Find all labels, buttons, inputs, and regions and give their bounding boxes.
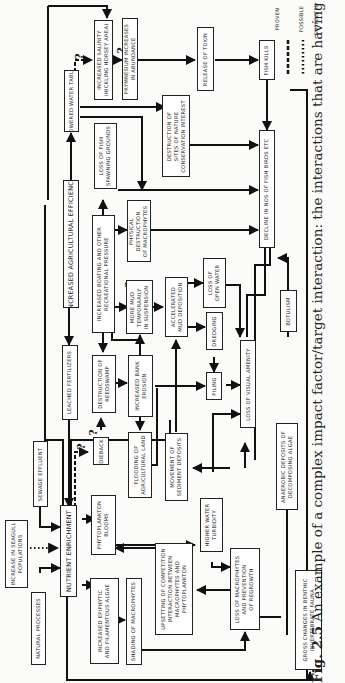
node-loss-macrophytes: LOSS OF MACROPHYTES AND PREVENTION OF RE… [230, 548, 260, 630]
node-physical-destruction: PHYSICAL DESTRUCTION OF MACROPHYTES [127, 200, 151, 262]
node-prymnesium: PRYMNESIUM INCREASES IN ABUNDANCE [122, 18, 138, 100]
caption-text: An example of a complex impact factor/ta… [309, 0, 325, 626]
legend-proven: PROVEN [270, 0, 284, 38]
node-loss-open-water: LOSS OF OPEN WATER [203, 258, 226, 308]
node-dieback: DIEBACK [93, 437, 109, 465]
node-increased-bank-erosion: INCREASED BANK EROSION [128, 355, 153, 417]
node-accelerated-mud: ACCELERATED MUD DEPOSITION [165, 277, 188, 337]
question-mark: ? [87, 429, 100, 435]
node-fish-kills: FISH KILLS [259, 40, 275, 80]
node-upsetting-competition: UPSETTING OF COMPETITION INTERACTION BET… [155, 543, 193, 635]
node-increased-boating: INCREASED BOATING AND OTHER RECREATIONAL… [92, 215, 115, 333]
node-release-of-toxin: RELEASE OF TOXIN [197, 27, 214, 91]
figure-label: Fig. 2.5 [309, 626, 325, 683]
node-dredging: DREDGING [206, 312, 223, 350]
node-seagull-populations: INCREASE IN SEAGULL POPULATIONS [5, 520, 28, 588]
node-flooding-agricultural-land: FLOODING OF AGRICULTURAL LAND [128, 432, 152, 498]
node-natural-processes: NATURAL PROCESSES [31, 592, 46, 665]
figure-caption: Fig. 2.5 An example of a complex impact … [309, 0, 325, 683]
node-movement-sediment: MOVEMENT OF SEDIMENT DEPOSITS [165, 433, 188, 501]
node-epiphytic-algae: INCREASED EPIPHYTIC AND FILAMENTOUS ALGA… [90, 578, 119, 664]
node-nutrient-enrichment: NUTRIENT ENRICHMENT [60, 505, 77, 597]
node-shading-macrophytes: SHADING OF MACROPHYTES [126, 578, 142, 665]
question-mark: ? [73, 53, 86, 59]
node-increased-salinity: INCREASED SALINITY (HICKLING HORSEY AREA… [94, 20, 113, 100]
node-phytoplankton-blooms: PHYTOPLANKTON BLOOMS [91, 495, 116, 555]
node-more-mud: MORE MUD TEMPORARILY IN SUSPENSION [126, 280, 153, 334]
question-mark: ? [75, 443, 88, 449]
node-lowered-water-table: LOWERED WATER TABLE [64, 70, 79, 132]
node-loss-fish-spawning: LOSS OF FISH SPAWNING GROUNDS [94, 123, 117, 189]
node-leached-fertilizers: LEACHED FERTILIZERS [62, 345, 78, 420]
node-botulism: BOTULISM [280, 290, 297, 332]
node-destruction-reedswamp: DESTRUCTION OF REEDSWAMP [92, 355, 116, 413]
node-increased-agricultural-efficiency: INCREASED AGRICULTURAL EFFICIENCY [63, 180, 79, 308]
legend-possible: POSSIBLE [294, 0, 308, 38]
node-anaerobic-deposits: ANAEROBIC DEPOSITS OF DECOMPOSING ALGAE [276, 423, 298, 510]
node-destruction-sites: DESTRUCTION OF SITES OF NATURE CONSERVAT… [162, 95, 190, 177]
node-loss-visual-amenity: LOSS OF VISUAL AMENITY [240, 340, 256, 428]
node-higher-water-turbidity: HIGHER WATER TURBIDITY [200, 498, 223, 552]
node-sewage-effluent: SEWAGE EFFLUENT [33, 441, 48, 507]
node-decline-fish-birds: DECLINE IN NOS OF FISH BIRDS ETC [259, 130, 275, 248]
node-piling: PILING [206, 372, 222, 400]
